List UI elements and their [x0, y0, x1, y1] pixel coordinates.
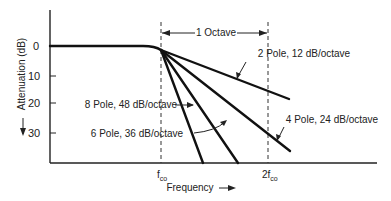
label-8-pole: 8 Pole, 48 dB/octave	[85, 99, 178, 110]
label-6-pole: 6 Pole, 36 dB/octave	[91, 128, 184, 139]
y-axis-label: Attenuation (dB)	[16, 38, 27, 110]
fco-label: fco	[157, 169, 167, 182]
y-axis-down-arrow-icon	[20, 128, 26, 136]
filter-rolloff-diagram: 0 10 20 30 Attenuation (dB) 1 Octave 2 P…	[0, 0, 391, 201]
y-tick-label: 20	[28, 97, 40, 109]
x-axis-label: Frequency	[166, 182, 213, 193]
y-tick-label: 30	[28, 127, 40, 139]
x-axis-right-arrow-icon	[228, 185, 236, 191]
passband-line	[50, 46, 161, 50]
octave-label: 1 Octave	[196, 27, 236, 38]
octave-right-arrow-icon	[259, 30, 267, 36]
y-tick-label: 10	[28, 70, 40, 82]
leader-6-pole	[194, 122, 225, 133]
leader-8-pole-arrow-icon	[187, 102, 194, 108]
label-4-pole: 4 Pole, 24 dB/octave	[286, 114, 379, 125]
y-tick-label: 0	[33, 40, 39, 52]
octave-left-arrow-icon	[162, 30, 170, 36]
label-2-pole: 2 Pole, 12 dB/octave	[258, 48, 351, 59]
2fco-label: 2fco	[262, 169, 278, 182]
